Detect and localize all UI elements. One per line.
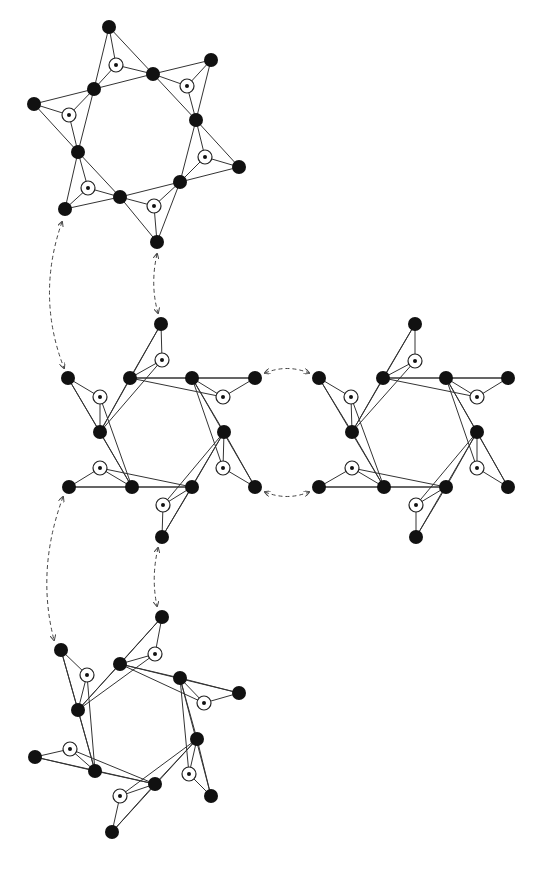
black-atom (312, 480, 326, 494)
bond (100, 432, 132, 487)
bond (94, 74, 153, 89)
center-dot-icon (114, 63, 118, 67)
dashed-arrow-top-to-midleft-inner (154, 254, 158, 313)
black-atom (87, 82, 101, 96)
open-site (470, 461, 484, 475)
center-dot-icon (68, 747, 72, 751)
black-atom (155, 610, 169, 624)
dashed-arrow-midleft-to-bottom-outer (47, 497, 63, 640)
black-atom (173, 175, 187, 189)
black-atom (105, 825, 119, 839)
dashed-arrow-top-to-midleft-outer (49, 222, 64, 368)
black-atom (155, 530, 169, 544)
center-dot-icon (160, 358, 164, 362)
black-atom (102, 20, 116, 34)
spoke (70, 749, 155, 784)
open-site (182, 767, 196, 781)
black-atom (409, 530, 423, 544)
open-site (409, 498, 423, 512)
bond (78, 89, 94, 152)
center-dot-icon (161, 503, 165, 507)
black-atom (204, 53, 218, 67)
center-dot-icon (98, 395, 102, 399)
kagome-cluster-diagram (0, 0, 538, 873)
spoke (383, 378, 477, 397)
black-atom (58, 202, 72, 216)
black-atom (173, 671, 187, 685)
center-dot-icon (67, 113, 71, 117)
open-site (93, 390, 107, 404)
center-dot-icon (185, 84, 189, 88)
center-dot-icon (413, 359, 417, 363)
open-site (345, 461, 359, 475)
black-atom (439, 371, 453, 385)
open-site (197, 696, 211, 710)
black-atom (123, 371, 137, 385)
black-atom (189, 113, 203, 127)
center-dot-icon (221, 395, 225, 399)
center-dot-icon (118, 794, 122, 798)
open-site (109, 58, 123, 72)
black-atom (248, 371, 262, 385)
bond (192, 432, 224, 487)
black-atom (190, 732, 204, 746)
open-site (63, 742, 77, 756)
bond (34, 89, 94, 104)
center-dot-icon (475, 466, 479, 470)
bond (120, 182, 180, 197)
black-atom (27, 97, 41, 111)
black-atom (376, 371, 390, 385)
bond (120, 664, 180, 678)
black-atom (501, 480, 515, 494)
open-site (216, 390, 230, 404)
bond (100, 378, 130, 432)
bond (153, 60, 211, 74)
open-site (344, 390, 358, 404)
open-site (470, 390, 484, 404)
center-dot-icon (187, 772, 191, 776)
cluster-middle-right (312, 317, 515, 544)
center-dot-icon (350, 466, 354, 470)
center-dot-icon (414, 503, 418, 507)
black-atom (61, 371, 75, 385)
dashed-arrow-midleft-to-midright-top (265, 369, 309, 374)
black-atom (62, 480, 76, 494)
open-site (216, 461, 230, 475)
open-site (93, 461, 107, 475)
bond (196, 60, 211, 120)
center-dot-icon (152, 204, 156, 208)
spoke (100, 468, 192, 487)
open-site (156, 498, 170, 512)
black-atom (439, 480, 453, 494)
bond (157, 182, 180, 242)
center-dot-icon (349, 395, 353, 399)
bond (65, 152, 78, 209)
bond (180, 120, 196, 182)
open-site (198, 150, 212, 164)
black-atom (204, 789, 218, 803)
bond (352, 432, 384, 487)
black-atom (232, 686, 246, 700)
bond (446, 432, 477, 487)
black-atom (345, 425, 359, 439)
bond (180, 167, 239, 182)
open-site (113, 789, 127, 803)
open-site (81, 181, 95, 195)
black-atom (154, 317, 168, 331)
spoke (120, 664, 204, 703)
black-atom (150, 235, 164, 249)
open-site (155, 353, 169, 367)
black-atom (248, 480, 262, 494)
open-site (408, 354, 422, 368)
black-atom (54, 643, 68, 657)
spoke (416, 432, 477, 505)
black-atom (185, 371, 199, 385)
black-atom (148, 777, 162, 791)
bond (95, 771, 155, 784)
open-site (62, 108, 76, 122)
black-atom (146, 67, 160, 81)
black-atom (113, 657, 127, 671)
black-atom (217, 425, 231, 439)
center-dot-icon (202, 701, 206, 705)
black-atom (185, 480, 199, 494)
